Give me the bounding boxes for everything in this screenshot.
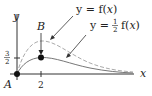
label-half-f-left: y = (89, 19, 109, 32)
diagram-canvas: y x 2 3 2 A B y = f(x) y = 1 2 f(x) (0, 0, 152, 96)
leader-half-f (68, 35, 86, 56)
label-half-f-right: f(x) (121, 19, 140, 32)
curve-f (17, 41, 133, 74)
curve-half-f (17, 57, 133, 74)
label-f: y = f(x) (75, 3, 117, 16)
leader-f (52, 16, 73, 38)
b-arrowhead (39, 50, 44, 55)
y-axis-label: y (12, 10, 20, 23)
point-a-label: A (3, 78, 12, 91)
label-half-f-den: 2 (113, 26, 117, 34)
y-tick-numerator: 3 (5, 50, 9, 58)
x-tick-label: 2 (38, 80, 44, 90)
y-tick-denominator: 2 (5, 58, 9, 66)
label-half-f-num: 1 (113, 18, 117, 26)
x-axis-label: x (140, 67, 147, 80)
point-b (38, 55, 44, 61)
point-b-label: B (36, 20, 45, 33)
point-a (14, 71, 20, 77)
